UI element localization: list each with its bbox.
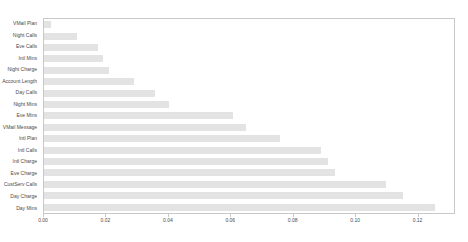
- bar: [44, 44, 98, 51]
- feature-importance-bar-chart: VMail PlanNight CallsEve CallsIntl MinsN…: [0, 0, 468, 242]
- y-axis-label: VMail Plan: [0, 18, 40, 29]
- x-tick-label: 0.08: [288, 218, 298, 223]
- bar: [44, 158, 328, 165]
- bar-row: [44, 202, 454, 213]
- x-tick-label: 0.00: [38, 218, 48, 223]
- bar-row: [44, 110, 454, 121]
- x-axis: 0.000.020.040.060.080.100.12: [43, 214, 455, 228]
- y-axis-label: Intl Charge: [0, 156, 40, 167]
- bar-row: [44, 133, 454, 144]
- bar: [44, 192, 403, 199]
- bar-row: [44, 19, 454, 30]
- bar-row: [44, 99, 454, 110]
- plot-area: [43, 18, 455, 214]
- y-axis-labels: VMail PlanNight CallsEve CallsIntl MinsN…: [0, 18, 40, 214]
- bar: [44, 204, 435, 211]
- bar-row: [44, 31, 454, 42]
- bar: [44, 181, 386, 188]
- bar-row: [44, 179, 454, 190]
- y-axis-label: Day Mins: [0, 203, 40, 214]
- y-axis-label: VMail Message: [0, 122, 40, 133]
- bar-row: [44, 145, 454, 156]
- bar-row: [44, 167, 454, 178]
- y-axis-label: Eve Mins: [0, 110, 40, 121]
- x-tick-label: 0.02: [101, 218, 111, 223]
- bar: [44, 90, 155, 97]
- bar: [44, 21, 51, 28]
- y-axis-label: Intl Plan: [0, 133, 40, 144]
- bar-row: [44, 122, 454, 133]
- bar-row: [44, 190, 454, 201]
- x-tick-label: 0.06: [225, 218, 235, 223]
- bar: [44, 78, 134, 85]
- bar-row: [44, 53, 454, 64]
- bar: [44, 135, 280, 142]
- bar: [44, 33, 77, 40]
- bar-row: [44, 156, 454, 167]
- bar: [44, 101, 169, 108]
- y-axis-label: Eve Calls: [0, 41, 40, 52]
- y-axis-label: Night Charge: [0, 64, 40, 75]
- x-tick-label: 0.10: [350, 218, 360, 223]
- bar: [44, 124, 246, 131]
- bar-row: [44, 65, 454, 76]
- bar: [44, 112, 233, 119]
- y-axis-label: Night Mins: [0, 99, 40, 110]
- x-tick-label: 0.12: [413, 218, 423, 223]
- bar: [44, 55, 103, 62]
- y-axis-label: Day Charge: [0, 191, 40, 202]
- bar-row: [44, 76, 454, 87]
- y-axis-label: Account Length: [0, 76, 40, 87]
- bar: [44, 169, 335, 176]
- y-axis-label: Eve Charge: [0, 168, 40, 179]
- bar-row: [44, 88, 454, 99]
- y-axis-label: Night Calls: [0, 30, 40, 41]
- y-axis-label: Intl Mins: [0, 53, 40, 64]
- bar-row: [44, 42, 454, 53]
- bar: [44, 67, 109, 74]
- y-axis-label: Intl Calls: [0, 145, 40, 156]
- y-axis-label: Day Calls: [0, 87, 40, 98]
- y-axis-label: CustServ Calls: [0, 179, 40, 190]
- x-tick-label: 0.04: [163, 218, 173, 223]
- bar: [44, 147, 321, 154]
